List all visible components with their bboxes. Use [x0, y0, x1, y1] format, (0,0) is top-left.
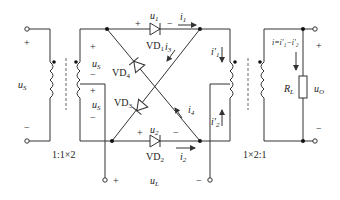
- resistor-label: RL: [283, 83, 294, 96]
- sec-top-minus: −: [90, 69, 96, 80]
- output-minus: −: [316, 123, 322, 134]
- vd4-label: VD4: [112, 67, 130, 80]
- load-resistor: [299, 27, 307, 143]
- input-minus: −: [24, 122, 30, 133]
- output-minus-terminal: [313, 139, 317, 143]
- sec-bot-voltage: uS: [92, 99, 101, 112]
- sec-bot-minus: −: [90, 112, 96, 123]
- sec-bot-plus: +: [90, 85, 96, 96]
- vd1-plus: +: [135, 18, 141, 29]
- vd2-plus: +: [137, 127, 143, 138]
- sec-top-plus: +: [90, 41, 96, 52]
- vd2-voltage: u2: [150, 124, 159, 137]
- i1p-label: i′1: [211, 46, 219, 59]
- ul-plus-terminal: [103, 178, 107, 182]
- i1-label: i1: [180, 11, 186, 24]
- output-plus: +: [316, 40, 322, 51]
- i2p-label: i′2: [211, 116, 220, 129]
- circuit-diagram: + uS − + uS − + uS − 1:1×2: [0, 0, 340, 200]
- input-plus: +: [24, 37, 30, 48]
- i3-label: i3: [165, 41, 172, 54]
- vd1-label: VD1: [146, 40, 164, 53]
- i2-label: i2: [180, 151, 187, 164]
- output-voltage: uO: [314, 83, 324, 96]
- vd3-label: VD3: [114, 97, 132, 110]
- output-plus-terminal: [313, 27, 317, 31]
- vd2-label: VD2: [146, 151, 164, 164]
- vd2-minus: −: [173, 127, 179, 138]
- i4-arrow: [175, 108, 182, 118]
- diode-vd1: [150, 23, 160, 35]
- ul-voltage: uL: [150, 175, 159, 188]
- ul-minus: −: [196, 175, 202, 186]
- right-transformer-ratio: 1×2:1: [243, 149, 266, 160]
- vd1-voltage: u1: [150, 10, 159, 23]
- diode-vd4: [129, 57, 145, 72]
- left-transformer-ratio: 1:1×2: [52, 149, 75, 160]
- i4-label: i4: [188, 104, 195, 117]
- vd1-minus: −: [167, 18, 173, 29]
- ul-plus: +: [113, 175, 119, 186]
- input-voltage-label: uS: [18, 79, 27, 92]
- ul-minus-terminal: [208, 178, 212, 182]
- load-current-equation: i=i′₁−i′₂: [272, 38, 299, 47]
